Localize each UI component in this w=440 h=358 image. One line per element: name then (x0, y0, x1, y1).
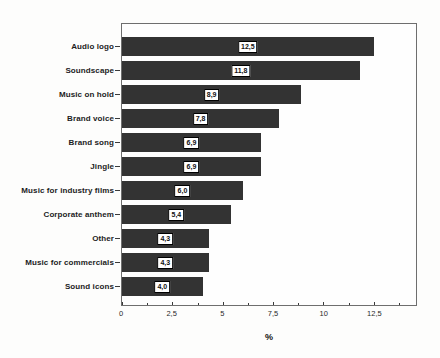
bar-chart-figure: Audio logo Soundscape Music on hold Bran… (0, 0, 440, 358)
y-tick (115, 262, 120, 263)
category-label: Jingle (90, 162, 114, 171)
bar-row: 4,3 (122, 253, 416, 272)
bar-row: 6,9 (122, 157, 416, 176)
bar: 6,0 (122, 181, 243, 200)
category-row: Music for industry films (0, 181, 120, 200)
value-label: 6,9 (184, 161, 200, 173)
category-label: Music on hold (59, 90, 114, 99)
bar-row: 5,4 (122, 205, 416, 224)
category-row: Music on hold (0, 85, 120, 104)
bar: 12,5 (122, 37, 374, 56)
bar-row: 8,9 (122, 85, 416, 104)
category-label: Brand voice (67, 114, 114, 123)
category-labels-column: Audio logo Soundscape Music on hold Bran… (0, 23, 120, 306)
y-tick (115, 286, 120, 287)
x-tick-label: 2,5 (166, 309, 176, 318)
category-label: Brand song (69, 138, 114, 147)
bar-row: 6,9 (122, 133, 416, 152)
y-tick (115, 214, 120, 215)
category-label: Music for industry films (21, 186, 114, 195)
value-label: 6,0 (175, 185, 191, 197)
y-tick (115, 46, 120, 47)
category-label: Audio logo (71, 42, 114, 51)
category-label: Music for commercials (25, 258, 114, 267)
x-tick-label: 5 (220, 309, 224, 318)
category-row: Sound icons (0, 277, 120, 296)
value-label: 12,5 (238, 41, 258, 53)
category-row: Brand song (0, 133, 120, 152)
category-label: Other (92, 234, 114, 243)
category-row: Corporate anthem (0, 205, 120, 224)
bar: 4,3 (122, 253, 209, 272)
bar: 8,9 (122, 85, 301, 104)
y-tick (115, 142, 120, 143)
bar: 4,3 (122, 229, 209, 248)
y-tick (115, 118, 120, 119)
bar-row: 4,3 (122, 229, 416, 248)
bar-row: 7,8 (122, 109, 416, 128)
value-label: 11,8 (231, 65, 250, 77)
category-label: Soundscape (65, 66, 114, 75)
bar-row: 6,0 (122, 181, 416, 200)
bar-row: 12,5 (122, 37, 416, 56)
bar: 11,8 (122, 61, 360, 80)
value-label: 4,0 (154, 281, 170, 293)
category-row: Brand voice (0, 109, 120, 128)
x-tick-label: 12,5 (367, 309, 382, 318)
bar: 6,9 (122, 133, 261, 152)
bar: 6,9 (122, 157, 261, 176)
value-label: 6,9 (184, 137, 200, 149)
y-tick (115, 190, 120, 191)
y-tick (115, 94, 120, 95)
value-label: 8,9 (204, 89, 220, 101)
bars-column: 12,5 11,8 8,9 7,8 6,9 6,9 6,0 5,4 4,3 4,… (122, 23, 416, 306)
value-label: 4,3 (157, 233, 173, 245)
category-label: Sound icons (65, 282, 114, 291)
value-label: 4,3 (157, 257, 173, 269)
category-label: Corporate anthem (44, 210, 115, 219)
category-row: Soundscape (0, 61, 120, 80)
x-tick-label: 7,5 (268, 309, 278, 318)
category-row: Other (0, 229, 120, 248)
value-label: 5,4 (168, 209, 184, 221)
bar: 5,4 (122, 205, 231, 224)
category-row: Jingle (0, 157, 120, 176)
x-axis-title: % (265, 332, 273, 342)
value-label: 7,8 (193, 113, 209, 125)
x-axis: 0 2,5 5 7,5 10 12,5 (121, 306, 417, 320)
bar-row: 4,0 (122, 277, 416, 296)
y-tick (115, 70, 120, 71)
bar-row: 11,8 (122, 61, 416, 80)
y-tick (115, 166, 120, 167)
bar: 7,8 (122, 109, 279, 128)
category-row: Music for commercials (0, 253, 120, 272)
category-row: Audio logo (0, 37, 120, 56)
x-axis-title-wrap: % (121, 326, 417, 344)
x-tick-label: 10 (320, 309, 328, 318)
bar: 4,0 (122, 277, 203, 296)
y-tick (115, 238, 120, 239)
x-tick-label: 0 (119, 309, 123, 318)
